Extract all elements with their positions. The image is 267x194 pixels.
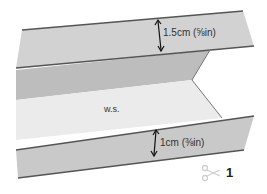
step-number: 1	[226, 165, 233, 180]
top-allowance-label: 1.5cm (⅝in)	[163, 27, 216, 38]
wrong-side-label: w.s.	[104, 104, 120, 114]
fabric-fold-diagram: 1.5cm (⅝in) w.s. 1cm (⅜in) 1	[0, 0, 267, 194]
scissors-icon	[203, 166, 221, 181]
bottom-allowance-label: 1cm (⅜in)	[160, 137, 204, 148]
